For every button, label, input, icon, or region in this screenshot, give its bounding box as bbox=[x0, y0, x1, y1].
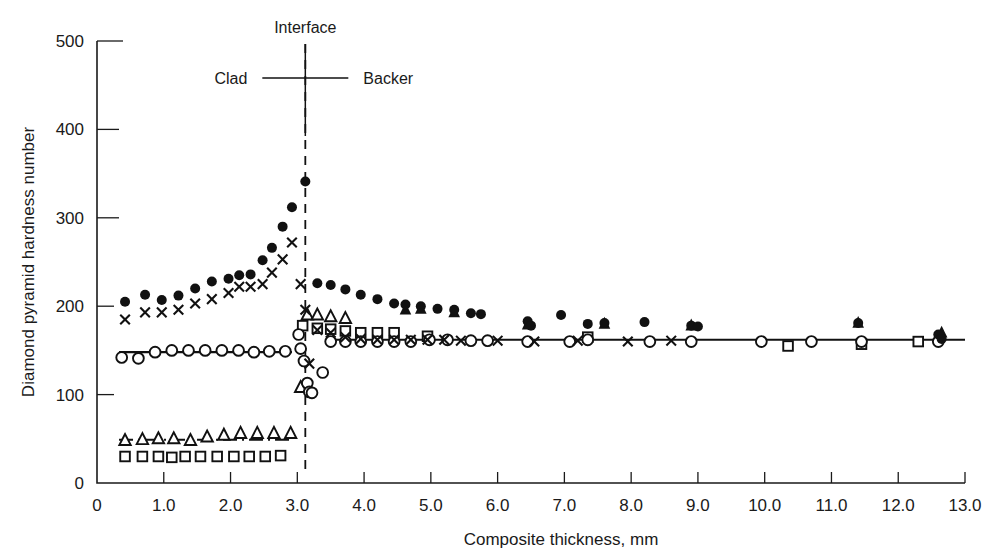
xtick-label-11.0: 11.0 bbox=[816, 496, 848, 515]
marker-open-circle bbox=[307, 387, 318, 398]
marker-open-square bbox=[313, 324, 323, 334]
marker-open-circle bbox=[317, 367, 328, 378]
marker-cross bbox=[258, 279, 268, 289]
marker-open-circle bbox=[233, 345, 244, 356]
marker-open-triangle bbox=[252, 427, 263, 438]
ytick-label-0: 0 bbox=[75, 474, 84, 493]
series-filled-circle bbox=[120, 177, 947, 344]
marker-filled-circle bbox=[389, 299, 399, 309]
xtick-label-4.0: 4.0 bbox=[352, 496, 376, 515]
marker-cross bbox=[120, 315, 130, 325]
marker-cross bbox=[157, 308, 167, 318]
marker-filled-circle bbox=[278, 222, 288, 232]
marker-open-triangle bbox=[168, 432, 179, 443]
series-filled-triangle bbox=[400, 302, 948, 338]
marker-filled-circle bbox=[416, 301, 426, 311]
marker-open-circle bbox=[166, 345, 177, 356]
marker-cross bbox=[267, 268, 277, 278]
marker-open-square bbox=[196, 452, 206, 462]
marker-open-circle bbox=[644, 336, 655, 347]
marker-open-triangle bbox=[201, 430, 212, 441]
marker-open-circle bbox=[249, 347, 260, 358]
marker-open-triangle bbox=[312, 308, 323, 319]
marker-filled-circle bbox=[340, 284, 350, 294]
marker-filled-circle bbox=[190, 284, 200, 294]
marker-open-triangle bbox=[268, 427, 279, 438]
marker-filled-circle bbox=[640, 317, 650, 327]
marker-open-square bbox=[138, 452, 148, 462]
marker-open-square bbox=[244, 452, 254, 462]
marker-open-triangle bbox=[302, 308, 313, 319]
marker-filled-circle bbox=[937, 334, 947, 344]
ytick-label-100: 100 bbox=[56, 386, 84, 405]
marker-filled-circle bbox=[207, 276, 217, 286]
annotations: InterfaceCladBacker bbox=[214, 19, 413, 475]
marker-open-triangle bbox=[153, 432, 164, 443]
marker-open-square bbox=[180, 452, 190, 462]
marker-cross bbox=[287, 238, 297, 248]
xtick-label-5.0: 5.0 bbox=[419, 496, 443, 515]
xtick-label-13.0: 13.0 bbox=[948, 496, 981, 515]
marker-open-square bbox=[260, 452, 270, 462]
marker-filled-circle bbox=[583, 319, 593, 329]
marker-open-circle bbox=[389, 336, 400, 347]
marker-open-circle bbox=[293, 329, 304, 340]
ytick-label-200: 200 bbox=[56, 297, 84, 316]
marker-filled-circle bbox=[356, 290, 366, 300]
marker-cross bbox=[246, 282, 256, 292]
marker-open-circle bbox=[133, 353, 144, 364]
marker-open-triangle bbox=[340, 312, 351, 323]
clad-label: Clad bbox=[214, 70, 247, 87]
marker-open-circle bbox=[280, 346, 291, 357]
marker-open-square bbox=[276, 451, 286, 461]
marker-open-circle bbox=[372, 336, 383, 347]
xtick-label-7.0: 7.0 bbox=[553, 496, 577, 515]
marker-filled-circle bbox=[526, 321, 536, 331]
marker-filled-circle bbox=[693, 322, 703, 332]
xtick-label-1.0: 1.0 bbox=[152, 496, 176, 515]
marker-open-square bbox=[212, 452, 222, 462]
marker-open-square bbox=[783, 341, 793, 351]
axis-labels: 010020030040050001.02.03.04.05.06.07.08.… bbox=[19, 32, 982, 549]
marker-open-circle bbox=[405, 336, 416, 347]
marker-filled-circle bbox=[267, 243, 277, 253]
marker-open-circle bbox=[264, 346, 275, 357]
marker-cross bbox=[224, 288, 234, 298]
marker-open-circle bbox=[116, 352, 127, 363]
marker-open-circle bbox=[856, 336, 867, 347]
trend-lines bbox=[119, 340, 965, 440]
marker-cross bbox=[140, 308, 150, 318]
marker-open-square bbox=[120, 452, 130, 462]
marker-filled-circle bbox=[140, 290, 150, 300]
marker-cross bbox=[190, 299, 200, 309]
axis-spine bbox=[97, 41, 965, 483]
data-markers bbox=[116, 177, 947, 463]
marker-filled-circle bbox=[258, 255, 268, 265]
marker-open-circle bbox=[686, 336, 697, 347]
marker-filled-circle bbox=[400, 299, 410, 309]
marker-open-square bbox=[154, 452, 164, 462]
figure-container: InterfaceCladBacker 010020030040050001.0… bbox=[0, 0, 990, 558]
marker-open-triangle bbox=[218, 429, 229, 440]
xtick-label-10.0: 10.0 bbox=[748, 496, 781, 515]
xtick-label-12.0: 12.0 bbox=[882, 496, 915, 515]
marker-open-circle bbox=[183, 345, 194, 356]
marker-open-circle bbox=[216, 345, 227, 356]
marker-cross bbox=[296, 279, 306, 289]
marker-open-square bbox=[167, 453, 177, 463]
marker-filled-circle bbox=[246, 269, 256, 279]
marker-open-triangle bbox=[285, 427, 296, 438]
marker-filled-circle bbox=[449, 305, 459, 315]
marker-open-circle bbox=[424, 334, 435, 345]
marker-open-circle bbox=[466, 335, 477, 346]
marker-filled-circle bbox=[234, 270, 244, 280]
interface-label: Interface bbox=[274, 19, 336, 36]
marker-cross bbox=[278, 255, 288, 265]
marker-filled-circle bbox=[157, 295, 167, 305]
marker-filled-circle bbox=[556, 310, 566, 320]
marker-filled-circle bbox=[476, 309, 486, 319]
x-axis-label: Composite thickness, mm bbox=[464, 530, 659, 549]
marker-open-circle bbox=[482, 335, 493, 346]
marker-open-circle bbox=[200, 345, 211, 356]
marker-open-circle bbox=[582, 334, 593, 345]
